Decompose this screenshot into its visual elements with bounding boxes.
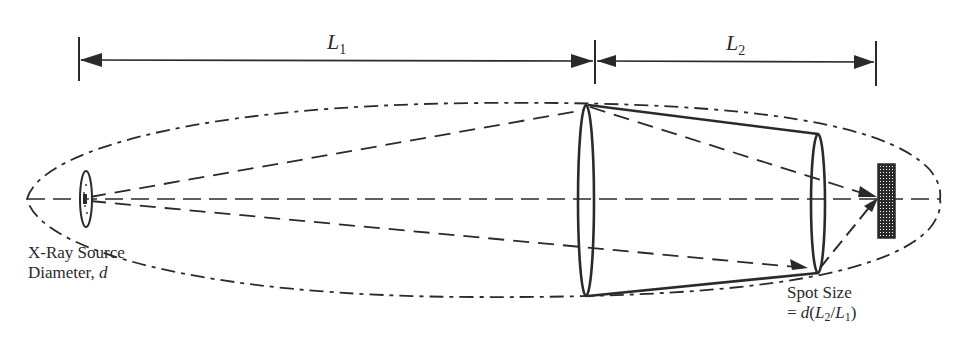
l2-left-arrowhead-icon	[597, 55, 616, 67]
source-label: X-Ray Source Diameter, d	[28, 243, 125, 283]
source-label-line1: X-Ray Source	[28, 243, 125, 263]
spot-size-label: Spot Size = d(L2/L1)	[787, 283, 856, 323]
ray-lower-incident	[90, 201, 806, 268]
spot-size-formula: = d(L2/L1)	[787, 303, 856, 323]
l1-label: L1	[326, 29, 346, 57]
x-ray-source	[80, 171, 92, 227]
ray-lower-arrowhead-icon	[790, 259, 808, 270]
source-label-line2: Diameter, d	[28, 263, 125, 283]
ray-upper-arrowhead-icon	[858, 186, 877, 197]
ray-upper-incident	[90, 110, 584, 197]
l2-right-arrowhead-icon	[854, 55, 874, 69]
l2-label: L2	[725, 30, 745, 58]
detector-spot	[878, 164, 895, 238]
l1-right-arrowhead-icon	[571, 54, 593, 68]
lens-2	[811, 134, 825, 273]
l1-left-arrowhead-icon	[80, 53, 102, 67]
ray-lower-converging	[820, 204, 872, 268]
l2-arrow-line	[597, 61, 874, 62]
spot-size-label-line1: Spot Size	[787, 283, 856, 303]
l1-arrow-line	[81, 60, 593, 61]
cone-bottom-edge	[588, 273, 818, 296]
lens-1	[578, 105, 594, 296]
